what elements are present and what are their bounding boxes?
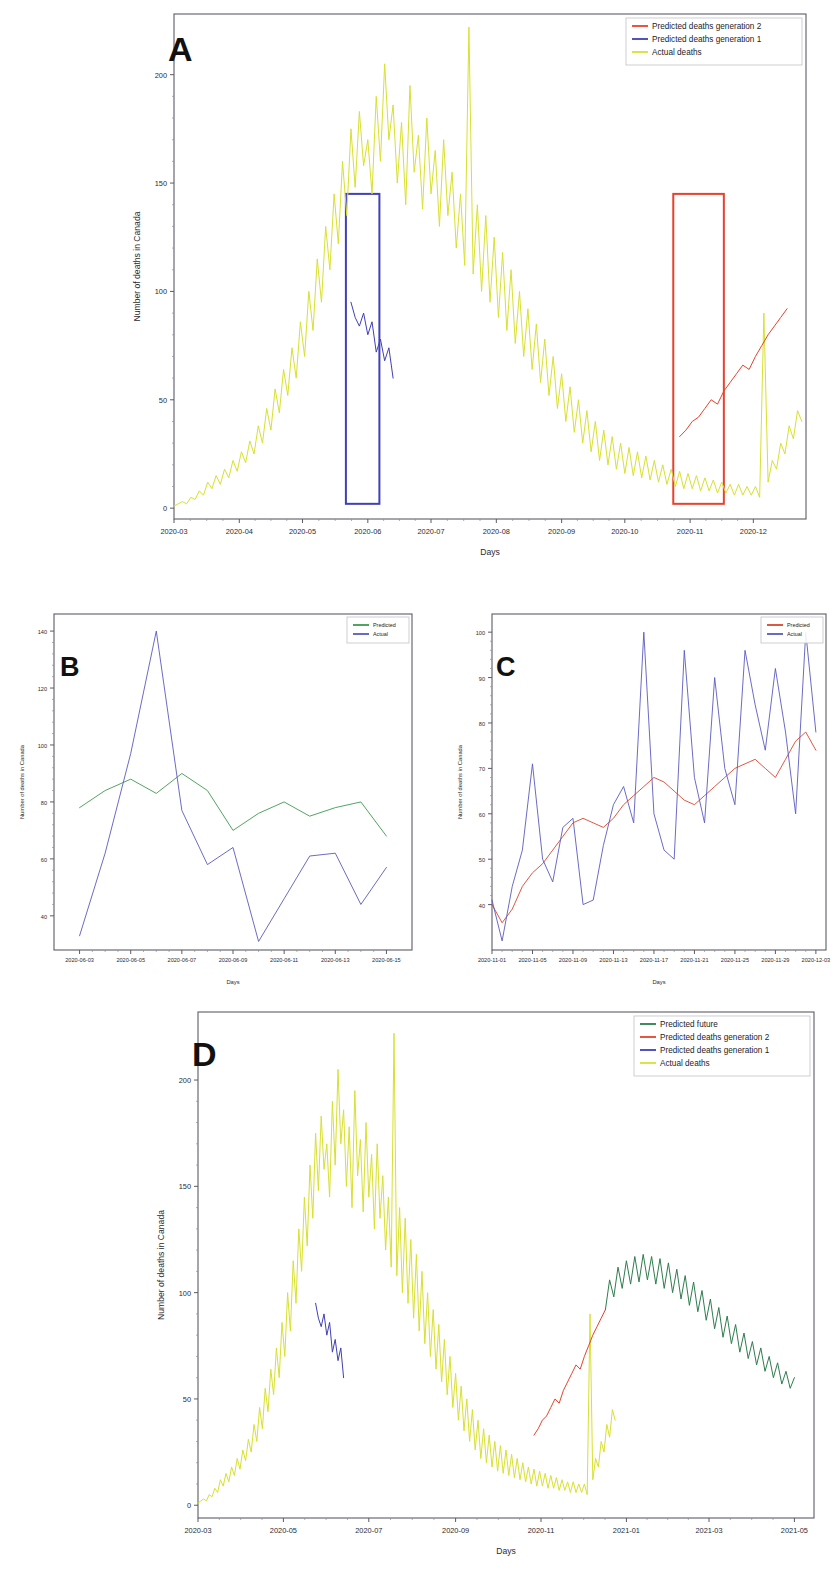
- y-tick-label: 140: [38, 629, 47, 635]
- series-predicted-deaths-generation-1: [351, 302, 393, 378]
- x-tick-label: 2020-08: [483, 527, 510, 536]
- x-tick-label: 2020-11: [677, 527, 704, 536]
- x-tick-label: 2020-06-05: [116, 957, 145, 963]
- x-tick-label: 2020-11-05: [518, 957, 546, 963]
- generation-2-window-box: [673, 194, 724, 504]
- panel-letter: D: [192, 1035, 217, 1073]
- legend-label: Actual: [787, 631, 802, 637]
- y-tick-label: 100: [155, 287, 167, 296]
- x-tick-label: 2020-11-29: [761, 957, 789, 963]
- legend-label: Actual deaths: [660, 1059, 710, 1068]
- y-tick-label: 150: [179, 1182, 191, 1191]
- x-tick-label: 2020-11-21: [680, 957, 708, 963]
- series-predicted: [80, 773, 387, 836]
- legend-box: [761, 617, 823, 643]
- y-tick-label: 120: [38, 686, 47, 692]
- plot-frame: [198, 1012, 814, 1518]
- panel-b-chart: 2020-06-032020-06-052020-06-072020-06-09…: [14, 606, 420, 998]
- y-tick-label: 40: [479, 903, 485, 909]
- y-tick-label: 90: [479, 676, 485, 682]
- y-tick-label: 100: [179, 1289, 191, 1298]
- x-axis-title: Days: [496, 1546, 516, 1556]
- y-axis-title: Number of deaths in Canada: [156, 1210, 166, 1320]
- x-tick-label: 2020-03: [160, 527, 187, 536]
- y-axis-title: Number of deaths in Canada: [457, 744, 463, 819]
- panel-d: 2020-032020-052020-072020-092020-112021-…: [152, 1004, 824, 1570]
- legend-label: Predicted future: [660, 1020, 718, 1029]
- y-tick-label: 50: [159, 396, 167, 405]
- legend-box: [347, 617, 409, 643]
- series-predicted-deaths-generation-1: [316, 1303, 344, 1377]
- x-tick-label: 2020-07: [417, 527, 444, 536]
- x-tick-label: 2020-11-13: [599, 957, 627, 963]
- x-tick-label: 2020-11: [528, 1526, 555, 1535]
- series-predicted-future: [605, 1254, 794, 1388]
- legend-label: Predicted: [787, 622, 810, 628]
- x-tick-label: 2020-06-13: [321, 957, 350, 963]
- series-predicted-deaths-generation-2: [534, 1310, 605, 1435]
- x-tick-label: 2020-11-09: [559, 957, 587, 963]
- x-tick-label: 2020-06-11: [270, 957, 298, 963]
- panel-d-chart: 2020-032020-052020-072020-092020-112021-…: [152, 1004, 824, 1570]
- x-tick-label: 2020-06-09: [219, 957, 248, 963]
- y-tick-label: 200: [155, 71, 167, 80]
- x-tick-label: 2020-05: [289, 527, 316, 536]
- series-actual-deaths: [198, 1033, 615, 1503]
- y-tick-label: 40: [41, 914, 47, 920]
- x-tick-label: 2020-06-07: [168, 957, 197, 963]
- y-axis-title: Number of deaths in Canada: [132, 211, 142, 321]
- panel-a: 2020-032020-042020-052020-062020-072020-…: [128, 6, 816, 571]
- panel-c-chart: 2020-11-012020-11-052020-11-092020-11-13…: [452, 606, 832, 998]
- panel-letter: B: [60, 652, 80, 682]
- series-actual: [80, 631, 387, 941]
- panel-letter: C: [496, 652, 516, 682]
- y-tick-label: 50: [479, 857, 485, 863]
- y-tick-label: 100: [38, 743, 47, 749]
- x-tick-label: 2020-09: [548, 527, 575, 536]
- legend-label: Actual: [373, 631, 388, 637]
- legend-label: Predicted deaths generation 1: [660, 1046, 770, 1055]
- x-tick-label: 2020-12: [740, 527, 767, 536]
- y-tick-label: 50: [183, 1395, 191, 1404]
- series-predicted: [492, 732, 816, 923]
- x-tick-label: 2021-05: [781, 1526, 808, 1535]
- x-axis-title: Days: [652, 979, 665, 985]
- series-predicted-deaths-generation-2: [680, 309, 787, 437]
- x-tick-label: 2020-03: [184, 1526, 211, 1535]
- panel-letter: A: [168, 30, 193, 68]
- x-tick-label: 2020-10: [611, 527, 638, 536]
- x-axis-title: Days: [480, 547, 500, 557]
- y-tick-label: 70: [479, 766, 485, 772]
- x-tick-label: 2020-11-17: [640, 957, 668, 963]
- y-tick-label: 60: [41, 857, 47, 863]
- x-tick-label: 2021-01: [613, 1526, 640, 1535]
- panel-c: 2020-11-012020-11-052020-11-092020-11-13…: [452, 606, 832, 998]
- x-tick-label: 2020-11-25: [721, 957, 749, 963]
- y-tick-label: 0: [163, 504, 167, 513]
- x-tick-label: 2020-12-03: [802, 957, 831, 963]
- series-actual: [492, 632, 816, 941]
- legend-label: Predicted deaths generation 2: [652, 22, 762, 31]
- x-tick-label: 2021-03: [695, 1526, 722, 1535]
- x-tick-label: 2020-07: [355, 1526, 382, 1535]
- generation-1-window-box: [346, 194, 379, 504]
- panel-a-chart: 2020-032020-042020-052020-062020-072020-…: [128, 6, 816, 571]
- y-tick-label: 150: [155, 179, 167, 188]
- figure-canvas: 2020-032020-042020-052020-062020-072020-…: [0, 0, 835, 1574]
- y-tick-label: 80: [479, 721, 485, 727]
- legend-label: Predicted deaths generation 2: [660, 1033, 770, 1042]
- x-tick-label: 2020-04: [226, 527, 253, 536]
- x-axis-title: Days: [226, 979, 239, 985]
- legend-label: Actual deaths: [652, 48, 702, 57]
- x-tick-label: 2020-09: [442, 1526, 469, 1535]
- x-tick-label: 2020-11-01: [478, 957, 506, 963]
- x-tick-label: 2020-06-03: [65, 957, 94, 963]
- legend-label: Predicted: [373, 622, 396, 628]
- plot-frame: [174, 14, 806, 519]
- y-tick-label: 200: [179, 1076, 191, 1085]
- panel-b: 2020-06-032020-06-052020-06-072020-06-09…: [14, 606, 420, 998]
- x-tick-label: 2020-05: [270, 1526, 297, 1535]
- series-actual-deaths: [174, 27, 802, 506]
- y-tick-label: 100: [476, 630, 485, 636]
- y-tick-label: 80: [41, 800, 47, 806]
